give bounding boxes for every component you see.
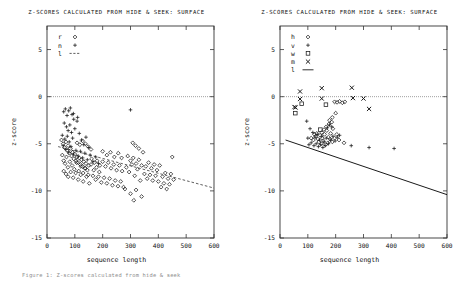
data-point-n bbox=[86, 158, 90, 162]
chart-title: Z-SCORES CALCULATED FROM HIDE & SEEK: SU… bbox=[28, 9, 204, 15]
data-point-n bbox=[77, 132, 81, 136]
data-point-r bbox=[71, 176, 75, 180]
data-point-r bbox=[140, 164, 144, 168]
data-point-r bbox=[165, 187, 169, 191]
chart-legend: rnl bbox=[58, 33, 81, 57]
data-point-r bbox=[137, 147, 141, 151]
data-point-m bbox=[367, 107, 371, 111]
data-point-r bbox=[144, 164, 148, 168]
data-point-r bbox=[81, 180, 85, 184]
scatter-plot-right: Z-SCORES CALCULATED FROM HIDE & SEEK: SU… bbox=[233, 0, 466, 282]
x-axis-tick-label: 200 bbox=[97, 242, 108, 249]
legend-label-r: r bbox=[58, 33, 62, 41]
data-point-m bbox=[298, 89, 302, 93]
data-point-r bbox=[92, 168, 96, 172]
data-point-r bbox=[169, 172, 173, 176]
scatter-plot-left: Z-SCORES CALCULATED FROM HIDE & SEEK: SU… bbox=[0, 0, 233, 282]
legend-label-m: m bbox=[291, 58, 295, 66]
data-point-r bbox=[112, 163, 116, 167]
data-point-v bbox=[324, 136, 328, 140]
legend-diamond-icon bbox=[73, 35, 77, 39]
data-point-r bbox=[133, 174, 137, 178]
legend-square-icon bbox=[306, 52, 310, 56]
data-point-r bbox=[116, 184, 120, 188]
x-axis-tick-label: 100 bbox=[69, 242, 80, 249]
y-axis-tick-label: -5 bbox=[268, 140, 276, 147]
plot-frame bbox=[280, 26, 447, 238]
data-point-v bbox=[349, 144, 353, 148]
legend-label-w: w bbox=[291, 50, 295, 58]
data-point-w bbox=[294, 111, 298, 115]
data-point-m bbox=[298, 97, 302, 101]
data-point-r bbox=[115, 168, 119, 172]
data-point-n bbox=[72, 117, 76, 121]
data-point-v bbox=[367, 146, 371, 150]
y-axis-label: z-score bbox=[243, 118, 251, 146]
x-axis-tick-label: 0 bbox=[278, 242, 282, 249]
y-axis-tick-label: -10 bbox=[31, 187, 42, 194]
y-axis-tick-label: -10 bbox=[264, 187, 275, 194]
series-m bbox=[292, 86, 371, 111]
data-point-n bbox=[84, 135, 88, 139]
data-point-r bbox=[95, 165, 99, 169]
data-point-n bbox=[71, 136, 75, 140]
data-point-r bbox=[97, 170, 101, 174]
data-point-r bbox=[76, 178, 80, 182]
y-axis-tick-label: 0 bbox=[38, 93, 42, 100]
data-point-r bbox=[94, 178, 98, 182]
chart-legend: hvwml bbox=[291, 33, 314, 74]
data-point-r bbox=[152, 163, 156, 167]
data-point-h bbox=[335, 132, 339, 136]
data-point-v bbox=[312, 144, 316, 148]
chart-panel-left: Z-SCORES CALCULATED FROM HIDE & SEEK: SU… bbox=[0, 0, 233, 282]
data-point-m bbox=[350, 86, 354, 90]
y-axis-tick-label: 0 bbox=[271, 93, 275, 100]
data-point-n bbox=[129, 108, 133, 112]
data-point-n bbox=[62, 110, 66, 114]
data-point-r bbox=[69, 170, 73, 174]
data-point-r bbox=[129, 159, 133, 163]
data-point-r bbox=[104, 164, 108, 168]
data-point-n bbox=[69, 106, 73, 110]
data-point-v bbox=[311, 131, 315, 135]
data-point-r bbox=[120, 169, 124, 173]
data-point-w bbox=[300, 102, 304, 106]
data-point-r bbox=[109, 166, 113, 170]
data-point-n bbox=[88, 153, 92, 157]
data-point-r bbox=[120, 156, 124, 160]
data-point-r bbox=[134, 188, 138, 192]
data-point-r bbox=[159, 185, 163, 189]
data-point-r bbox=[170, 155, 174, 159]
trend-line bbox=[286, 140, 447, 195]
data-point-n bbox=[61, 133, 65, 137]
data-point-v bbox=[309, 141, 313, 145]
data-point-r bbox=[117, 164, 121, 168]
x-axis-tick-label: 500 bbox=[181, 242, 192, 249]
x-axis-tick-label: 300 bbox=[125, 242, 136, 249]
data-point-m bbox=[320, 86, 324, 90]
data-point-r bbox=[108, 177, 112, 181]
data-point-v bbox=[308, 127, 312, 131]
data-point-v bbox=[331, 134, 335, 138]
data-point-h bbox=[329, 132, 333, 136]
data-point-h bbox=[334, 111, 338, 115]
data-point-n bbox=[62, 121, 66, 125]
data-point-r bbox=[91, 174, 95, 178]
data-point-r bbox=[116, 151, 120, 155]
legend-label-l: l bbox=[58, 50, 62, 58]
data-point-r bbox=[60, 138, 64, 142]
data-point-v bbox=[392, 147, 396, 151]
data-point-r bbox=[109, 150, 113, 154]
data-point-r bbox=[149, 166, 153, 170]
data-point-r bbox=[129, 192, 133, 196]
data-point-h bbox=[330, 115, 334, 119]
data-point-w bbox=[324, 103, 328, 107]
data-point-r bbox=[138, 179, 142, 183]
data-point-r bbox=[163, 171, 167, 175]
data-point-r bbox=[99, 181, 103, 185]
data-point-r bbox=[155, 168, 159, 172]
x-axis-tick-label: 100 bbox=[302, 242, 313, 249]
data-point-r bbox=[166, 177, 170, 181]
data-point-r bbox=[105, 153, 109, 157]
x-axis-label: sequence length bbox=[87, 256, 147, 264]
